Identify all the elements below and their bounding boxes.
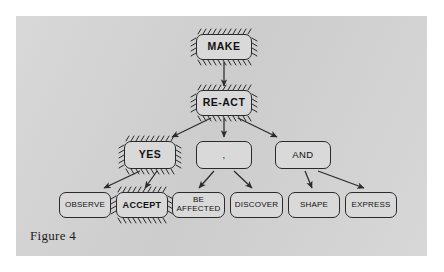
node-and[interactable]: AND: [275, 141, 331, 169]
node-shape[interactable]: SHAPE: [288, 192, 340, 218]
node-react[interactable]: RE-ACT: [196, 90, 252, 116]
edge-react-yes: [172, 118, 211, 137]
figure-caption: Figure 4: [30, 228, 76, 244]
edge-react-and: [238, 118, 277, 137]
node-accept[interactable]: ACCEPT: [116, 192, 168, 218]
node-make[interactable]: MAKE: [196, 34, 252, 60]
node-observe[interactable]: OBSERVE: [59, 192, 111, 218]
node-yes[interactable]: YES: [124, 141, 176, 169]
node-be-affected-line2: AFFECTED: [177, 205, 221, 214]
node-comma[interactable]: ,: [196, 141, 252, 169]
edge-comma-discover: [234, 171, 252, 188]
edge-comma-be-affected: [199, 171, 214, 188]
figure-page: MAKE RE-ACT YES , AND OBSERVE ACCEPT BE …: [0, 0, 444, 272]
node-express[interactable]: EXPRESS: [345, 192, 397, 218]
edge-yes-accept: [145, 171, 157, 188]
edge-yes-observe: [104, 171, 140, 188]
edge-and-shape: [305, 171, 312, 188]
node-be-affected[interactable]: BE AFFECTED: [172, 192, 225, 218]
node-discover[interactable]: DISCOVER: [230, 192, 283, 218]
edge-and-express: [318, 171, 364, 188]
